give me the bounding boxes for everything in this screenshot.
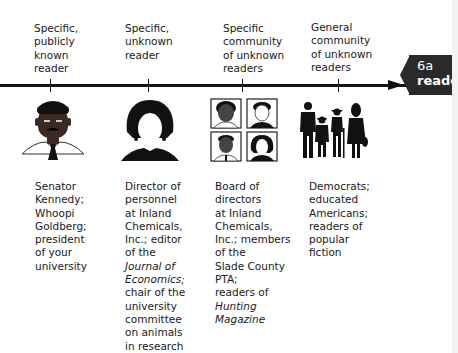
description-line: Board of bbox=[215, 180, 291, 193]
description-line: Chemicals, bbox=[125, 220, 185, 233]
description-line: Inc.; members bbox=[215, 233, 291, 246]
description-line-journal-title: Journal of bbox=[125, 260, 185, 273]
description-line: fiction bbox=[309, 246, 370, 259]
description-line: readers of bbox=[309, 220, 370, 233]
description-line: Whoopi bbox=[35, 207, 87, 220]
description-line-journal-title: Economics; bbox=[125, 273, 185, 286]
description-line: Goldberg; bbox=[35, 220, 87, 233]
description-general-community: Democrats; educated Americans; readers o… bbox=[309, 180, 370, 260]
label-specific-known-reader: Specific, publicly known reader bbox=[34, 22, 78, 75]
description-line: personnel bbox=[125, 193, 185, 206]
description-line: Inc.; editor bbox=[125, 233, 185, 246]
description-specific-unknown-reader: Director of personnel at Inland Chemical… bbox=[125, 180, 185, 353]
description-line: Democrats; bbox=[309, 180, 370, 193]
axis-tick bbox=[242, 79, 243, 92]
senator-portrait-icon bbox=[20, 98, 86, 160]
faceless-woman-silhouette-icon bbox=[119, 98, 181, 162]
description-line-magazine-title: Hunting bbox=[215, 300, 291, 313]
description-line: Americans; bbox=[309, 207, 370, 220]
axis-tick bbox=[338, 79, 339, 92]
description-line: of the bbox=[125, 246, 185, 259]
description-line: at Inland bbox=[125, 207, 185, 220]
description-line: chair of the bbox=[125, 286, 185, 299]
description-line: educated bbox=[309, 193, 370, 206]
axis-tick bbox=[148, 79, 149, 92]
page-edge-shadow bbox=[452, 0, 458, 353]
description-line: committee bbox=[125, 313, 185, 326]
description-line: of your bbox=[35, 246, 87, 259]
label-specific-community: Specific community of unknown readers bbox=[223, 22, 284, 75]
description-line: Senator bbox=[35, 180, 87, 193]
description-line: president bbox=[35, 233, 87, 246]
description-line: Chemicals, bbox=[215, 220, 291, 233]
description-line: on animals bbox=[125, 326, 185, 339]
description-line-magazine-title: Magazine bbox=[215, 313, 291, 326]
label-specific-unknown-reader: Specific, unknown reader bbox=[125, 22, 173, 62]
reader-spectrum-axis bbox=[0, 84, 452, 87]
description-line: university bbox=[125, 300, 185, 313]
section-badge: 6a reader bbox=[409, 55, 458, 95]
four-portraits-grid-icon bbox=[210, 98, 278, 162]
description-line: PTA; bbox=[215, 273, 291, 286]
description-specific-community: Board of directors at Inland Chemicals, … bbox=[215, 180, 291, 326]
description-line: at Inland bbox=[215, 207, 291, 220]
axis-tick bbox=[50, 79, 51, 92]
description-line: Kennedy; bbox=[35, 193, 87, 206]
description-line: of the bbox=[215, 246, 291, 259]
description-line: university bbox=[35, 260, 87, 273]
description-line: in research bbox=[125, 340, 185, 353]
crowd-silhouettes-icon bbox=[298, 100, 368, 162]
description-specific-known-reader: Senator Kennedy; Whoopi Goldberg; presid… bbox=[35, 180, 87, 273]
label-general-community: General community of unknown readers bbox=[311, 21, 372, 74]
description-line: popular bbox=[309, 233, 370, 246]
description-line: readers of bbox=[215, 286, 291, 299]
description-line: directors bbox=[215, 193, 291, 206]
description-line: Director of bbox=[125, 180, 185, 193]
description-line: Slade County bbox=[215, 260, 291, 273]
